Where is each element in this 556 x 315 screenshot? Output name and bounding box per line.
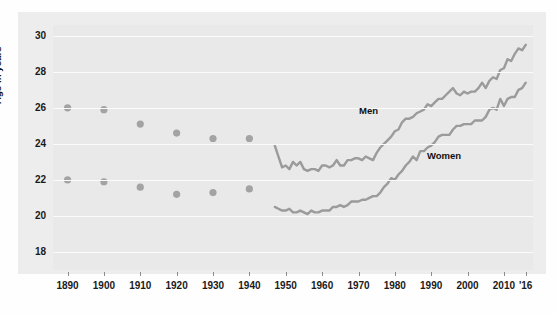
x-tick-mark bbox=[504, 272, 505, 276]
gridline bbox=[53, 180, 533, 181]
marker-men-1940 bbox=[246, 135, 253, 142]
gridline bbox=[53, 108, 533, 109]
x-tick-1960: 1960 bbox=[311, 280, 333, 291]
x-tick-mark bbox=[104, 272, 105, 276]
x-tick-mark bbox=[140, 272, 141, 276]
x-tick-mark bbox=[68, 272, 69, 276]
x-tick-16: '16 bbox=[519, 280, 533, 291]
gridline bbox=[53, 252, 533, 253]
marker-women-1910 bbox=[137, 184, 144, 191]
x-tick-mark bbox=[526, 272, 527, 276]
x-tick-mark bbox=[359, 272, 360, 276]
series-lines bbox=[275, 45, 526, 214]
x-tick-1940: 1940 bbox=[238, 280, 260, 291]
x-tick-1990: 1990 bbox=[420, 280, 442, 291]
chart-svg bbox=[53, 25, 533, 270]
marker-women-1920 bbox=[173, 191, 180, 198]
gridline bbox=[53, 216, 533, 217]
x-tick-mark bbox=[322, 272, 323, 276]
marker-men-1930 bbox=[209, 135, 216, 142]
gridline bbox=[53, 144, 533, 145]
x-tick-2010: 2010 bbox=[493, 280, 515, 291]
x-tick-mark bbox=[395, 272, 396, 276]
series-label-men: Men bbox=[359, 105, 378, 116]
gridline bbox=[53, 36, 533, 37]
x-tick-1930: 1930 bbox=[202, 280, 224, 291]
x-tick-1980: 1980 bbox=[384, 280, 406, 291]
x-tick-mark bbox=[213, 272, 214, 276]
marker-women-1940 bbox=[246, 185, 253, 192]
x-tick-mark bbox=[286, 272, 287, 276]
marker-men-1910 bbox=[137, 120, 144, 127]
x-tick-mark bbox=[468, 272, 469, 276]
marker-women-1930 bbox=[209, 189, 216, 196]
series-label-women: Women bbox=[427, 150, 461, 161]
x-tick-mark bbox=[249, 272, 250, 276]
plot-area bbox=[53, 25, 533, 270]
series-markers bbox=[64, 104, 253, 198]
x-tick-1910: 1910 bbox=[129, 280, 151, 291]
chart-canvas: Age in years 18202224262830 189019001910… bbox=[0, 0, 556, 315]
series-line-women bbox=[275, 83, 526, 215]
x-tick-1890: 1890 bbox=[56, 280, 78, 291]
x-tick-mark bbox=[431, 272, 432, 276]
marker-men-1920 bbox=[173, 129, 180, 136]
x-tick-1950: 1950 bbox=[275, 280, 297, 291]
x-tick-mark bbox=[177, 272, 178, 276]
x-tick-1970: 1970 bbox=[347, 280, 369, 291]
gridline bbox=[53, 72, 533, 73]
x-tick-1920: 1920 bbox=[165, 280, 187, 291]
x-tick-2000: 2000 bbox=[456, 280, 478, 291]
x-tick-1900: 1900 bbox=[93, 280, 115, 291]
